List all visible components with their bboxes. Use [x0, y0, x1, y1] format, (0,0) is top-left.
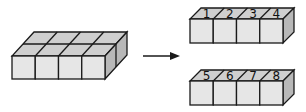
right-arrow-icon — [143, 52, 180, 60]
cube-front — [190, 81, 213, 105]
cube-number-label: 1 — [203, 7, 211, 21]
cube-splitting-diagram: 1234 5678 — [0, 0, 306, 112]
block-cube-front — [35, 56, 58, 79]
cube-front — [237, 19, 260, 43]
cube-front — [260, 19, 283, 43]
result-row-top: 1234 — [190, 7, 294, 44]
cube-number-label: 4 — [273, 7, 281, 21]
block-cube-front — [59, 56, 82, 79]
arrow-head — [170, 52, 180, 60]
result-row-bottom: 5678 — [190, 69, 294, 106]
cube-number-label: 2 — [226, 7, 234, 21]
cube-front — [237, 81, 260, 105]
source-block-2x4 — [12, 32, 127, 79]
block-cube-front — [12, 56, 35, 79]
cube-front — [190, 19, 213, 43]
cube-number-label: 8 — [273, 69, 281, 83]
cube-front — [213, 19, 236, 43]
cube-front — [213, 81, 236, 105]
cube-front — [260, 81, 283, 105]
block-cube-front — [82, 56, 105, 79]
cube-number-label: 5 — [203, 69, 211, 83]
cube-number-label: 3 — [249, 7, 257, 21]
cube-number-label: 6 — [226, 69, 234, 83]
cube-number-label: 7 — [249, 69, 257, 83]
